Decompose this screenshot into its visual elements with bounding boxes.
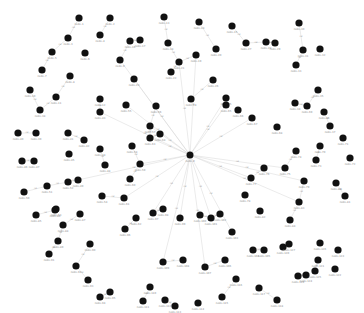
graph-node[interactable]	[316, 45, 323, 52]
graph-node[interactable]	[126, 175, 133, 182]
graph-node[interactable]	[300, 177, 307, 184]
graph-node[interactable]	[256, 207, 263, 214]
graph-node[interactable]	[234, 106, 241, 113]
graph-node[interactable]	[295, 198, 302, 205]
graph-node[interactable]	[314, 256, 321, 263]
graph-node[interactable]	[179, 256, 186, 263]
graph-node[interactable]	[311, 267, 318, 274]
graph-node[interactable]	[51, 206, 58, 213]
graph-node[interactable]	[242, 39, 249, 46]
graph-node[interactable]	[326, 122, 333, 129]
graph-node[interactable]	[334, 246, 341, 253]
graph-node[interactable]	[18, 157, 25, 164]
graph-node[interactable]	[48, 48, 55, 55]
graph-node[interactable]	[164, 39, 171, 46]
graph-node[interactable]	[116, 56, 123, 63]
graph-node[interactable]	[72, 262, 79, 269]
graph-node[interactable]	[96, 31, 103, 38]
graph-node[interactable]	[106, 14, 113, 21]
graph-node[interactable]	[20, 188, 27, 195]
graph-node[interactable]	[320, 108, 327, 115]
graph-node[interactable]	[221, 256, 228, 263]
graph-node[interactable]	[281, 164, 288, 171]
graph-node[interactable]	[136, 160, 143, 167]
graph-node[interactable]	[76, 210, 83, 217]
graph-node[interactable]	[161, 296, 168, 303]
graph-node[interactable]	[121, 225, 128, 232]
graph-node[interactable]	[146, 122, 153, 129]
graph-node[interactable]	[74, 176, 81, 183]
graph-node[interactable]	[316, 239, 323, 246]
graph-node[interactable]	[52, 93, 59, 100]
graph-node[interactable]	[248, 114, 255, 121]
graph-node[interactable]	[96, 293, 103, 300]
graph-node[interactable]	[286, 216, 293, 223]
graph-node[interactable]	[222, 94, 229, 101]
graph-node[interactable]	[80, 136, 87, 143]
graph-node[interactable]	[303, 102, 310, 109]
graph-node[interactable]	[128, 142, 135, 149]
graph-node[interactable]	[332, 179, 339, 186]
graph-node[interactable]	[260, 246, 267, 253]
graph-node[interactable]	[81, 49, 88, 56]
graph-node[interactable]	[130, 75, 137, 82]
graph-node[interactable]	[291, 99, 298, 106]
graph-node[interactable]	[132, 214, 139, 221]
graph-node[interactable]	[66, 72, 73, 79]
graph-node[interactable]	[260, 164, 267, 171]
graph-node[interactable]	[59, 221, 66, 228]
graph-node[interactable]	[209, 76, 216, 83]
graph-node[interactable]	[146, 134, 153, 141]
graph-node[interactable]	[299, 46, 306, 53]
graph-node[interactable]	[195, 18, 202, 25]
graph-node[interactable]	[75, 14, 82, 21]
graph-node[interactable]	[159, 205, 166, 212]
graph-node[interactable]	[26, 86, 33, 93]
graph-node[interactable]	[331, 265, 338, 272]
graph-node[interactable]	[216, 210, 223, 217]
graph-node[interactable]	[285, 240, 292, 247]
hub-node[interactable]	[187, 152, 194, 159]
graph-node[interactable]	[156, 130, 163, 137]
graph-node[interactable]	[171, 302, 178, 309]
graph-node[interactable]	[96, 145, 103, 152]
graph-node[interactable]	[64, 129, 71, 136]
graph-node[interactable]	[247, 174, 254, 181]
graph-node[interactable]	[192, 51, 199, 58]
graph-node[interactable]	[139, 297, 146, 304]
graph-node[interactable]	[65, 150, 72, 157]
graph-node[interactable]	[36, 106, 43, 113]
graph-node[interactable]	[201, 263, 208, 270]
graph-node[interactable]	[222, 101, 229, 108]
graph-node[interactable]	[212, 45, 219, 52]
graph-node[interactable]	[273, 296, 280, 303]
graph-node[interactable]	[314, 86, 321, 93]
graph-node[interactable]	[136, 36, 143, 43]
graph-node[interactable]	[160, 13, 167, 20]
graph-node[interactable]	[232, 275, 239, 282]
graph-node[interactable]	[339, 134, 346, 141]
graph-node[interactable]	[54, 237, 61, 244]
graph-node[interactable]	[218, 293, 225, 300]
graph-node[interactable]	[64, 34, 71, 41]
graph-node[interactable]	[316, 142, 323, 149]
graph-node[interactable]	[152, 102, 159, 109]
graph-node[interactable]	[241, 191, 248, 198]
graph-node[interactable]	[98, 192, 105, 199]
graph-node[interactable]	[167, 68, 174, 75]
graph-node[interactable]	[146, 283, 153, 290]
graph-node[interactable]	[295, 19, 302, 26]
graph-node[interactable]	[122, 101, 129, 108]
graph-node[interactable]	[228, 228, 235, 235]
graph-node[interactable]	[126, 37, 133, 44]
graph-node[interactable]	[120, 194, 127, 201]
graph-node[interactable]	[14, 129, 21, 136]
graph-node[interactable]	[45, 250, 52, 257]
graph-node[interactable]	[86, 240, 93, 247]
graph-node[interactable]	[341, 192, 348, 199]
graph-node[interactable]	[228, 22, 235, 29]
graph-node[interactable]	[262, 38, 269, 45]
graph-node[interactable]	[43, 182, 50, 189]
graph-node[interactable]	[159, 258, 166, 265]
graph-node[interactable]	[96, 108, 103, 115]
